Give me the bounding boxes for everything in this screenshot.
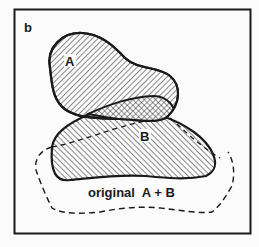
diagram-figure: b A B original A + B [0,0,259,247]
label-a: A [65,54,75,69]
label-original: original A + B [88,185,175,200]
label-b: B [140,129,149,144]
panel-label: b [24,20,32,35]
